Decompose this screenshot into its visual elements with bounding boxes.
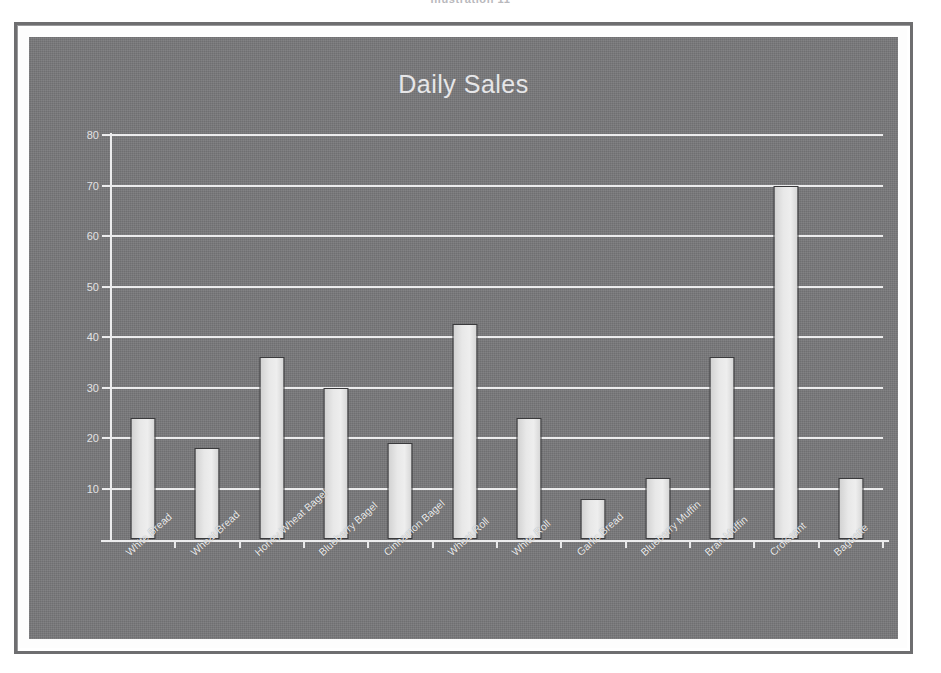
bar-slot[interactable] (240, 135, 304, 539)
y-axis-tick-mark (102, 235, 110, 237)
x-axis-tick-mark (689, 541, 691, 548)
bars-layer (111, 135, 883, 539)
x-axis-tick-mark (753, 541, 755, 548)
bar-slot[interactable] (497, 135, 561, 539)
x-axis-tick-mark (367, 541, 369, 548)
bar[interactable] (774, 186, 799, 540)
x-axis-tick-mark (239, 541, 241, 548)
bar-slot[interactable] (561, 135, 625, 539)
y-axis-tick-label: 70 (87, 180, 99, 192)
x-axis-line (101, 540, 889, 542)
bar-slot[interactable] (111, 135, 175, 539)
y-axis-tick-mark (102, 185, 110, 187)
y-axis-tick-mark (102, 488, 110, 490)
y-axis-tick-mark (102, 336, 110, 338)
bar-slot[interactable] (690, 135, 754, 539)
bar[interactable] (259, 357, 284, 539)
y-axis-tick-mark (102, 387, 110, 389)
bar[interactable] (517, 418, 542, 539)
bar-slot[interactable] (626, 135, 690, 539)
bar-slot[interactable] (304, 135, 368, 539)
y-axis-tick-mark (102, 134, 110, 136)
y-axis-tick-label: 30 (87, 382, 99, 394)
y-axis-tick-label: 10 (87, 483, 99, 495)
x-axis-tick-mark (174, 541, 176, 548)
figure-caption: Illustration 11 (0, 0, 941, 5)
bar[interactable] (131, 418, 156, 539)
x-axis-tick-mark (303, 541, 305, 548)
x-axis-tick-mark (818, 541, 820, 548)
x-axis-tick-mark (560, 541, 562, 548)
chart-canvas: Daily Sales 1020304050607080 White Bread… (29, 37, 898, 639)
bar[interactable] (324, 388, 349, 540)
figure-frame: Daily Sales 1020304050607080 White Bread… (14, 22, 913, 654)
x-axis-tick-mark (882, 541, 884, 548)
y-axis-tick-label: 60 (87, 230, 99, 242)
chart-title: Daily Sales (29, 70, 898, 99)
bar[interactable] (710, 357, 735, 539)
y-axis-tick-label: 50 (87, 281, 99, 293)
y-axis-tick-label: 40 (87, 331, 99, 343)
bar-slot[interactable] (433, 135, 497, 539)
bar-slot[interactable] (175, 135, 239, 539)
y-axis-tick-label: 80 (87, 129, 99, 141)
figure-inner-margin: Daily Sales 1020304050607080 White Bread… (20, 28, 907, 648)
y-axis-tick-label: 20 (87, 432, 99, 444)
bar-slot[interactable] (754, 135, 818, 539)
bar-slot[interactable] (368, 135, 432, 539)
bar-slot[interactable] (819, 135, 883, 539)
x-axis-tick-mark (432, 541, 434, 548)
y-axis-tick-mark (102, 437, 110, 439)
bar[interactable] (452, 324, 477, 539)
plot-area: 1020304050607080 (111, 135, 883, 539)
x-axis-tick-mark (496, 541, 498, 548)
y-axis-tick-mark (102, 286, 110, 288)
x-axis-tick-mark (625, 541, 627, 548)
